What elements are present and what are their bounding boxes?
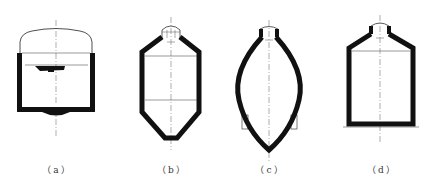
- panel-c-vessel: [238, 20, 301, 162]
- vessel-shapes-figure: （a） （b） （c） （d）: [0, 0, 429, 185]
- caption-d: （d）: [367, 163, 397, 176]
- caption-a: （a）: [42, 163, 71, 176]
- panel-d-vessel: [343, 15, 419, 143]
- panel-b-vessel: [142, 17, 199, 150]
- caption-c: （c）: [255, 163, 284, 176]
- caption-b: （b）: [157, 163, 187, 176]
- panel-a-vessel: [17, 20, 95, 138]
